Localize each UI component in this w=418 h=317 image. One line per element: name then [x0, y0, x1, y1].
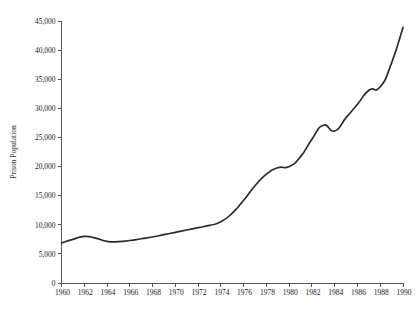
y-axis-tick-label: 15,000: [35, 191, 56, 200]
x-axis-tick-label: 1974: [214, 288, 229, 297]
x-axis-tick-label: 1978: [260, 288, 275, 297]
x-axis-tick-label: 1984: [328, 288, 343, 297]
y-axis-tick-label: 40,000: [35, 46, 56, 55]
y-axis-tick-label: 5,000: [39, 250, 56, 259]
y-axis-tick-label: 30,000: [35, 104, 56, 113]
x-axis-tick-label: 1990: [397, 288, 412, 297]
y-axis-ticks: 05,00010,00015,00020,00025,00030,00035,0…: [35, 17, 62, 288]
y-axis-tick-label: 45,000: [35, 17, 56, 26]
x-axis-tick-label: 1966: [123, 288, 138, 297]
x-axis-tick-label: 1976: [237, 288, 252, 297]
x-axis-tick-label: 1988: [374, 288, 389, 297]
x-axis-tick-label: 1964: [101, 288, 116, 297]
y-axis-title: Prison Population: [9, 125, 18, 179]
x-axis-tick-label: 1970: [169, 288, 184, 297]
x-axis-tick-label: 1960: [55, 288, 70, 297]
y-axis-tick-label: 25,000: [35, 133, 56, 142]
line-chart: Prison Population 05,00010,00015,00020,0…: [0, 0, 418, 317]
data-series-line: [62, 27, 404, 242]
y-axis-tick-label: 35,000: [35, 75, 56, 84]
y-axis-title-label: Prison Population: [9, 125, 18, 179]
x-axis-tick-label: 1968: [146, 288, 161, 297]
x-axis-ticks: 1960196219641966196819701972197419761978…: [55, 283, 412, 297]
chart-container: Prison Population 05,00010,00015,00020,0…: [0, 0, 418, 317]
x-axis-tick-label: 1972: [192, 288, 207, 297]
x-axis-tick-label: 1962: [78, 288, 93, 297]
y-axis-tick-label: 0: [52, 279, 56, 288]
x-axis-tick-label: 1980: [283, 288, 298, 297]
y-axis-tick-label: 20,000: [35, 162, 56, 171]
x-axis-tick-label: 1982: [305, 288, 320, 297]
y-axis-tick-label: 10,000: [35, 221, 56, 230]
x-axis-tick-label: 1986: [351, 288, 366, 297]
